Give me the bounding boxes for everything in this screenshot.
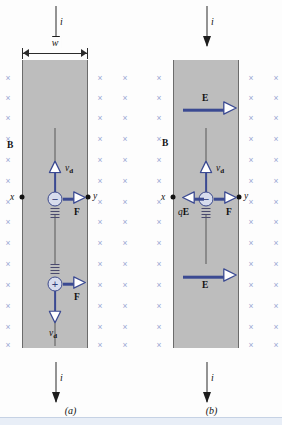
field-mark: ×: [123, 114, 128, 123]
electric-field-arrow-top-b: [183, 105, 235, 115]
field-mark: ×: [157, 323, 162, 332]
charge-sign: −: [49, 193, 62, 206]
terminal-dot-y-b[interactable]: [237, 195, 242, 200]
field-mark: ×: [157, 218, 162, 227]
field-mark: ×: [249, 302, 254, 311]
field-mark: ×: [123, 177, 128, 186]
field-mark: ×: [6, 341, 11, 350]
field-mark: ×: [157, 156, 162, 165]
terminal-label-x-a: x: [10, 192, 14, 202]
carrier-tail-pos-a: [50, 264, 60, 276]
field-mark: ×: [123, 302, 128, 311]
field-mark: ×: [98, 323, 103, 332]
field-mark: ×: [157, 341, 162, 350]
drift-velocity-subscript: d: [220, 167, 224, 175]
panel-a: ××××××××××××××××××××××××××××××××××××××××…: [0, 0, 141, 425]
terminal-dot-x-b[interactable]: [171, 195, 176, 200]
arrow-shaft: [183, 276, 225, 279]
field-mark: ×: [98, 114, 103, 123]
electric-field-label-top-b: E: [202, 93, 208, 103]
field-mark: ×: [157, 94, 162, 103]
field-mark: ×: [249, 94, 254, 103]
field-mark: ×: [123, 341, 128, 350]
terminal-label-y-a: y: [93, 191, 97, 201]
field-mark: ×: [274, 341, 279, 350]
field-mark: ×: [157, 302, 162, 311]
electric-field-label-bottom-b: E: [202, 280, 208, 290]
carrier-tail-neg-b: [201, 208, 211, 220]
guide-line-upper-a: [55, 128, 56, 164]
field-mark: ×: [98, 94, 103, 103]
arrow-head: [52, 392, 60, 403]
arrow-head: [224, 190, 237, 208]
field-mark: ×: [249, 198, 254, 207]
field-mark: ×: [123, 281, 128, 290]
current-label-top-a: i: [60, 16, 63, 27]
field-mark: ×: [123, 135, 128, 144]
field-mark: ×: [123, 94, 128, 103]
field-mark: ×: [249, 156, 254, 165]
field-mark: ×: [98, 341, 103, 350]
drift-velocity-label-neg-a: vd: [65, 163, 73, 175]
electric-field-arrow-bottom-b: [183, 272, 235, 282]
field-mark: ×: [274, 135, 279, 144]
field-mark: ×: [6, 177, 11, 186]
magnetic-field-label-b: B: [162, 138, 168, 148]
field-mark: ×: [6, 74, 11, 83]
arrow-head: [223, 101, 237, 119]
magnetic-force-label-neg-b: F: [226, 207, 232, 217]
current-label-bottom-b: i: [211, 372, 214, 383]
width-label: w: [49, 37, 62, 48]
field-mark: ×: [98, 302, 103, 311]
field-mark: ×: [249, 74, 254, 83]
field-mark: ×: [123, 218, 128, 227]
magnetic-force-label-pos-a: F: [74, 292, 80, 302]
field-mark: ×: [98, 281, 103, 290]
width-dimension-a: w: [22, 49, 88, 58]
field-mark: ×: [98, 156, 103, 165]
field-mark: ×: [249, 341, 254, 350]
bottom-band: [0, 417, 282, 425]
current-label-bottom-a: i: [60, 372, 63, 383]
terminal-label-x-b: x: [161, 192, 165, 202]
field-mark: ×: [274, 239, 279, 248]
drift-velocity-arrowhead-neg-a: [49, 161, 62, 174]
field-mark: ×: [274, 218, 279, 227]
strip-bottom-edge: [174, 341, 238, 348]
field-mark: ×: [157, 177, 162, 186]
magnetic-force-arrow-pos-a: [63, 279, 85, 289]
field-mark: ×: [249, 218, 254, 227]
drift-velocity-subscript: d: [53, 332, 57, 340]
field-mark: ×: [98, 198, 103, 207]
field-mark: ×: [157, 260, 162, 269]
dimension-arrow-left: [23, 49, 29, 57]
field-mark: ×: [6, 323, 11, 332]
field-mark: ×: [98, 239, 103, 248]
dimension-tick-right: [87, 48, 88, 59]
field-mark: ×: [123, 156, 128, 165]
field-mark: ×: [249, 135, 254, 144]
field-mark: ×: [6, 281, 11, 290]
field-mark: ×: [157, 114, 162, 123]
drift-velocity-arrowhead-pos-a: [49, 311, 62, 324]
field-mark: ×: [274, 198, 279, 207]
drift-velocity-subscript: d: [69, 167, 73, 175]
arrow-head: [203, 36, 211, 47]
carrier-pos-trail-a: [54, 291, 56, 311]
guide-line-middle-a: [55, 214, 56, 264]
arrow-head: [223, 268, 237, 286]
current-arrow-bottom-a: [51, 362, 60, 402]
field-mark: ×: [249, 177, 254, 186]
guide-line-middle-b: [206, 214, 207, 264]
terminal-dot-x-a[interactable]: [20, 195, 25, 200]
panel-caption-b: (b): [141, 405, 282, 416]
field-mark: ×: [274, 323, 279, 332]
field-mark: ×: [274, 260, 279, 269]
field-mark: ×: [249, 323, 254, 332]
panel-caption-a: (a): [0, 405, 141, 416]
field-mark: ×: [157, 74, 162, 83]
terminal-dot-y-a[interactable]: [86, 195, 91, 200]
panel-b: ××××××××××××××××××××××××××××××××××××××××…: [141, 0, 282, 425]
field-mark: ×: [98, 135, 103, 144]
field-mark: ×: [123, 239, 128, 248]
